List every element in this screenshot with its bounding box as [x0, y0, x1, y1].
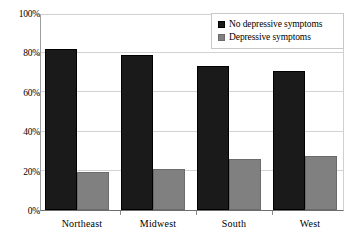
x-axis-label-northeast: Northeast: [44, 218, 120, 230]
y-axis-tickmark-0: [35, 211, 40, 212]
x-axis-label-west: West: [272, 218, 348, 230]
x-axis-tickmark-2: [196, 211, 197, 215]
legend: No depressive symptoms Depressive sympto…: [211, 13, 344, 49]
x-axis-tickmark-1: [120, 211, 121, 215]
x-axis-tickmark-3: [272, 211, 273, 215]
legend-label-no-depressive-symptoms: No depressive symptoms: [229, 19, 322, 30]
bar-group-midwest: [121, 15, 197, 210]
bar-west-depressive-symptoms: [305, 156, 337, 210]
bar-group-northeast: [45, 15, 121, 210]
legend-swatch-icon-dark: [218, 21, 225, 28]
legend-swatch-icon-light: [218, 34, 225, 41]
x-axis-label-midwest: Midwest: [120, 218, 196, 230]
bar-midwest-depressive-symptoms: [153, 169, 185, 210]
legend-item-depressive-symptoms: Depressive symptoms: [218, 31, 338, 44]
bar-south-depressive-symptoms: [229, 159, 261, 210]
bar-west-no-depressive-symptoms: [273, 71, 305, 210]
bar-south-no-depressive-symptoms: [197, 66, 229, 210]
legend-item-no-depressive-symptoms: No depressive symptoms: [218, 18, 338, 31]
bar-northeast-depressive-symptoms: [77, 172, 109, 210]
bar-midwest-no-depressive-symptoms: [121, 55, 153, 210]
y-axis-tick-label-80: 80%: [6, 48, 40, 58]
legend-label-depressive-symptoms: Depressive symptoms: [229, 32, 311, 43]
x-axis-label-south: South: [196, 218, 272, 230]
bar-chart: 100% 80% 60% 40% 20% 0%: [0, 0, 353, 243]
bar-northeast-no-depressive-symptoms: [45, 49, 77, 210]
